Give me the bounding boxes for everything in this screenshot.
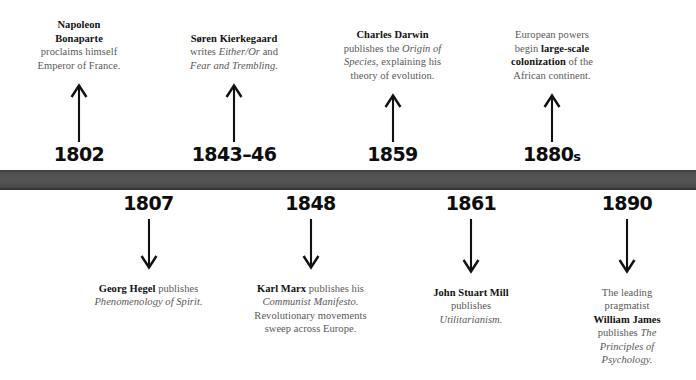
event-year: 1880s bbox=[523, 145, 581, 166]
event-year: 1890 bbox=[602, 194, 652, 215]
arrow-down-icon bbox=[139, 219, 159, 273]
arrow-up-icon bbox=[224, 80, 244, 142]
event-description: NapoleonBonaparteproclaims himselfEmpero… bbox=[38, 18, 121, 72]
arrow-down-icon bbox=[617, 219, 637, 277]
timeline-event-below-2: 1848 Karl Marx publishes hisCommunist Ma… bbox=[239, 194, 382, 374]
arrow-down-icon bbox=[301, 219, 321, 273]
event-year: 1807 bbox=[123, 194, 173, 215]
timeline-event-above-3: Charles Darwinpublishes the Origin ofSpe… bbox=[320, 14, 465, 166]
arrow-up-icon bbox=[383, 90, 403, 142]
event-description: Charles Darwinpublishes the Origin ofSpe… bbox=[344, 28, 442, 82]
timeline-diagram: NapoleonBonaparteproclaims himselfEmpero… bbox=[0, 0, 696, 380]
event-description: Georg Hegel publishesPhenomenology of Sp… bbox=[94, 282, 202, 309]
arrow-up-icon bbox=[69, 80, 89, 142]
event-description: European powersbegin large-scalecoloniza… bbox=[511, 28, 593, 82]
event-description: Karl Marx publishes hisCommunist Manifes… bbox=[254, 282, 366, 336]
event-year: 1802 bbox=[54, 145, 104, 166]
event-description: John Stuart MillpublishesUtilitarianism. bbox=[433, 286, 508, 326]
arrow-down-icon bbox=[461, 219, 481, 277]
timeline-event-above-1: NapoleonBonaparteproclaims himselfEmpero… bbox=[8, 14, 150, 166]
event-year: 1843–46 bbox=[192, 145, 277, 166]
event-year: 1848 bbox=[285, 194, 335, 215]
timeline-event-above-2: Søren Kierkegaardwrites Either/Or andFea… bbox=[163, 14, 305, 166]
arrow-up-icon bbox=[542, 90, 562, 142]
event-description: The leadingpragmatistWilliam Jamespublis… bbox=[593, 286, 660, 366]
event-year: 1861 bbox=[446, 194, 496, 215]
timeline-event-below-3: 1861 John Stuart MillpublishesUtilitaria… bbox=[400, 194, 542, 374]
timeline-event-below-1: 1807 Georg Hegel publishesPhenomenology … bbox=[77, 194, 220, 374]
timeline-event-above-4: European powersbegin large-scalecoloniza… bbox=[479, 14, 625, 166]
event-description: Søren Kierkegaardwrites Either/Or andFea… bbox=[190, 32, 278, 72]
event-year: 1859 bbox=[367, 145, 417, 166]
timeline-bar bbox=[0, 170, 696, 190]
timeline-event-below-4: 1890 The leadingpragmatistWilliam Jamesp… bbox=[562, 194, 692, 374]
